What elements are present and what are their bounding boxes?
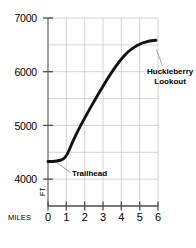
x-tick-label-3: 3 (96, 211, 110, 223)
x-axis-label: MILES (8, 213, 31, 222)
x-tick-label-2: 2 (78, 211, 92, 223)
y-tick-label-5000: 5000 (3, 120, 37, 132)
x-tick-label-5: 5 (133, 211, 147, 223)
x-tick-label-6: 6 (151, 211, 165, 223)
y-tick-label-4000: 4000 (3, 173, 37, 185)
y-tick-label-7000: 7000 (3, 12, 37, 24)
annotation-trailhead: Trailhead (72, 169, 107, 179)
x-tick-label-0: 0 (41, 211, 55, 223)
annotation-huckleberry-line-2: Lookout (147, 77, 193, 87)
annotation-huckleberry-lookout: Huckleberry Lookout (147, 67, 193, 86)
huckleberry-leader-line (157, 50, 163, 67)
elevation-profile-chart: 7000 6000 5000 4000 FT. MILES 0 1 2 3 4 … (0, 0, 196, 248)
annotation-huckleberry-line-1: Huckleberry (147, 67, 193, 77)
y-tick-label-6000: 6000 (3, 66, 37, 78)
x-tick-label-4: 4 (114, 211, 128, 223)
x-tick-label-1: 1 (59, 211, 73, 223)
trailhead-leader-line (57, 163, 71, 173)
y-axis-label: FT. (39, 186, 46, 196)
